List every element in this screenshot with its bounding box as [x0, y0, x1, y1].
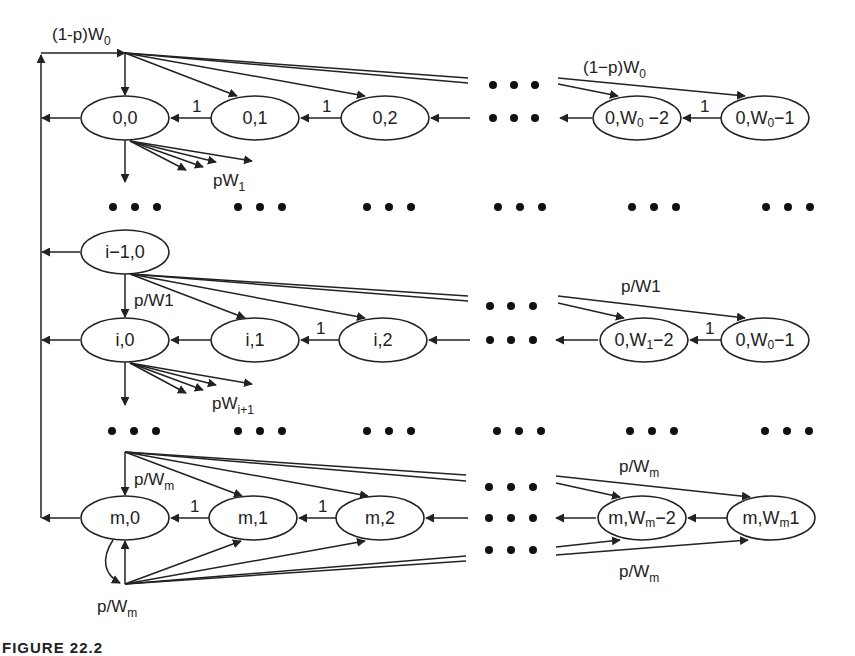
- ellipsis-row-icon: [108, 427, 813, 435]
- state-node: 0,2: [341, 96, 429, 140]
- svg-text:0,2: 0,2: [372, 108, 397, 128]
- state-node: m,Wm1: [727, 496, 815, 540]
- state-node: i,0: [81, 318, 169, 362]
- exit-label-row0: pW1: [213, 171, 246, 194]
- svg-text:i,1: i,1: [245, 330, 264, 350]
- state-node: 0,1: [211, 96, 299, 140]
- source-label-rowm-bottom-right: p/Wm: [619, 562, 659, 585]
- svg-text:0,W1−2: 0,W1−2: [614, 330, 673, 352]
- source-label-rowi-right: p/W1: [621, 277, 661, 296]
- state-node: m,2: [336, 496, 424, 540]
- figure-caption: FIGURE 22.2: [2, 639, 103, 656]
- source-label-row0-right: (1−p)W0: [583, 58, 646, 81]
- svg-text:1: 1: [316, 319, 325, 338]
- svg-text:0,W0−1: 0,W0−1: [735, 108, 794, 130]
- exit-label-rowi: pWi+1: [212, 394, 254, 417]
- svg-text:0,1: 0,1: [242, 108, 267, 128]
- state-node: i−1,0: [81, 230, 169, 274]
- svg-text:m,2: m,2: [365, 508, 395, 528]
- state-node: m,1: [209, 496, 297, 540]
- ellipsis-icon: [489, 81, 539, 122]
- row-stage-i: p/W1 p/W1 i,0 i,1 i,2 0,W1−2 0,W0−1 1 1 …: [81, 274, 809, 417]
- source-label-row0-left: (1-p)W0: [52, 25, 111, 48]
- row-stage-m: p/Wm p/Wm m,0 m,1 m,2 m,Wm−2 m,Wm1 1 1 p…: [81, 452, 815, 620]
- svg-text:i,2: i,2: [373, 330, 392, 350]
- row-stage-0: (1-p)W0 (1−p)W0 0,0 0,1 0,2 0,W0 −2 0,W0…: [52, 25, 809, 194]
- state-node: m,Wm−2: [598, 496, 686, 540]
- state-node: i,2: [339, 318, 427, 362]
- state-node: 0,W0−1: [721, 318, 809, 362]
- source-label-rowi-left: p/W1: [134, 291, 174, 310]
- source-label-rowm-bottom-left: p/Wm: [97, 597, 137, 620]
- svg-text:i,0: i,0: [115, 330, 134, 350]
- svg-text:0,0: 0,0: [112, 108, 137, 128]
- state-node: i,1: [211, 318, 299, 362]
- source-label-rowm-top-left: p/Wm: [134, 470, 174, 493]
- svg-text:0,W0−1: 0,W0−1: [735, 330, 794, 352]
- source-label-rowm-top-right: p/Wm: [619, 457, 659, 480]
- svg-text:1: 1: [705, 319, 714, 338]
- svg-text:m,0: m,0: [110, 508, 140, 528]
- ellipsis-icon: [485, 483, 537, 554]
- svg-text:m,1: m,1: [238, 508, 268, 528]
- svg-text:m,Wm−2: m,Wm−2: [608, 508, 676, 530]
- state-node: 0,W1−2: [600, 318, 688, 362]
- ellipsis-icon: [486, 302, 537, 344]
- row-stage-i-minus-1: i−1,0: [81, 230, 169, 274]
- svg-text:i−1,0: i−1,0: [105, 242, 145, 262]
- svg-text:1: 1: [700, 97, 709, 116]
- state-node: 0,0: [81, 96, 169, 140]
- svg-text:m,Wm1: m,Wm1: [743, 508, 800, 530]
- svg-text:1: 1: [190, 497, 199, 516]
- svg-text:1: 1: [192, 97, 201, 116]
- state-node: m,0: [81, 496, 169, 540]
- svg-text:1: 1: [318, 497, 327, 516]
- svg-text:1: 1: [322, 97, 331, 116]
- state-node: 0,W0 −2: [593, 96, 681, 140]
- state-node: 0,W0−1: [721, 96, 809, 140]
- ellipsis-row-icon: [109, 203, 814, 211]
